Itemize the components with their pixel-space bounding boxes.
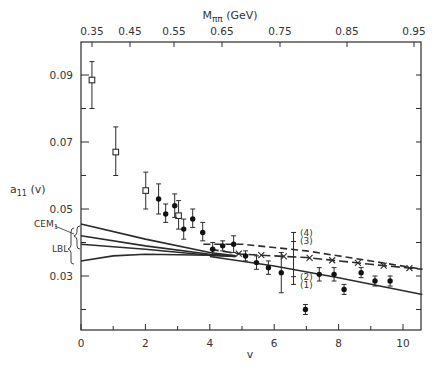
top-axis-label: Mππ (GeV) [202,9,257,24]
curve-label: (3) [300,236,313,246]
cem1-label: CEM1 [34,219,58,231]
y-tick-label: 0.03 [50,270,73,282]
y-tick-label: 0.05 [50,203,73,215]
top-tick-label: 0.65 [210,25,233,37]
filled-circle-marker [181,226,186,231]
curve [210,257,423,295]
filled-circle-marker [387,278,392,283]
open-square-marker [89,77,95,83]
top-tick-label: 0.85 [335,25,358,37]
curve-label: (1) [300,280,313,290]
y-tick-label: 0.09 [50,69,73,81]
data-points [89,62,393,315]
filled-circle-marker [200,230,205,235]
x-tick-label: 4 [206,337,213,349]
top-tick-label: 0.55 [162,25,185,37]
filled-circle-marker [372,278,377,283]
top-tick-label: 0.45 [118,25,141,37]
filled-circle-marker [341,287,346,292]
filled-circle-marker [266,265,271,270]
plot-frame [81,42,421,330]
filled-circle-marker [156,196,161,201]
y-axis-label: a11 (v) [10,183,46,198]
filled-circle-marker [279,270,284,275]
filled-circle-marker [317,272,322,277]
filled-circle-marker [163,211,168,216]
x-tick-label: 6 [271,337,278,349]
open-square-marker [143,188,149,194]
y-tick-label: 0.07 [50,136,73,148]
x-axis-label: v [247,348,254,361]
x-tick-label: 0 [78,337,85,349]
x-tick-label: 8 [335,337,342,349]
filled-circle-marker [231,241,236,246]
theory-curves [81,224,422,294]
lbl-label: LBL [52,244,68,254]
filled-circle-marker [220,243,225,248]
cem-brace [74,226,80,249]
filled-circle-marker [190,216,195,221]
filled-circle-marker [331,272,336,277]
filled-circle-marker [358,270,363,275]
top-tick-label: 0.35 [80,25,103,37]
filled-circle-marker [254,260,259,265]
filled-circle-marker [243,253,248,258]
filled-circle-marker [303,307,308,312]
chart: 02468100.090.070.050.030.350.450.550.650… [0,0,433,367]
x-tick-label: 10 [396,337,409,349]
top-tick-label: 0.95 [402,25,425,37]
x-tick-label: 2 [142,337,149,349]
axis-ticks: 02468100.090.070.050.030.350.450.550.650… [50,25,426,349]
top-tick-label: 0.75 [268,25,291,37]
filled-circle-marker [210,247,215,252]
filled-circle-marker [172,203,177,208]
open-square-marker [113,149,119,155]
